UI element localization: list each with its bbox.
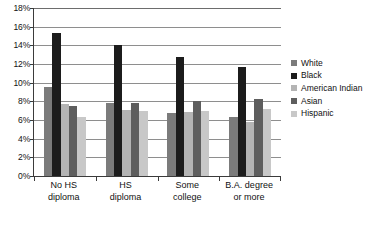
legend-label: Asian [301, 97, 322, 106]
legend-item: Black [291, 70, 384, 83]
y-tick-label: 12% [0, 60, 30, 69]
bar [61, 104, 69, 176]
bar [131, 103, 139, 176]
bar [77, 117, 85, 176]
legend-swatch-icon [291, 73, 297, 79]
bar-group [34, 8, 96, 176]
y-tick-label: 6% [0, 116, 30, 125]
legend-label: Black [301, 71, 322, 80]
bar [176, 57, 184, 176]
bar [238, 67, 246, 176]
bar-chart: 0%2%4%6%8%10%12%14%16%18% No HSdiplomaHS… [0, 0, 384, 225]
legend-label: American Indian [301, 84, 362, 93]
legend-item: White [291, 57, 384, 70]
bar [263, 109, 271, 176]
bars-layer [34, 8, 281, 176]
bar [246, 122, 254, 176]
bar [122, 110, 130, 176]
y-tick-label: 16% [0, 22, 30, 31]
bar [114, 45, 122, 176]
bar [52, 33, 60, 176]
x-axis-labels: No HSdiplomaHSdiplomaSomecollegeB.A. deg… [33, 180, 280, 212]
bar [229, 117, 237, 176]
plot-area [33, 8, 281, 177]
y-tick-label: 14% [0, 41, 30, 50]
bar [106, 103, 114, 176]
y-tick-label: 0% [0, 172, 30, 181]
legend: WhiteBlackAmerican IndianAsianHispanic [291, 57, 384, 120]
bar [139, 111, 147, 176]
y-axis: 0%2%4%6%8%10%12%14%16%18% [0, 0, 30, 185]
y-tick-label: 2% [0, 153, 30, 162]
bar-group [158, 8, 220, 176]
x-axis-category-line: HS [119, 180, 132, 190]
bar [44, 87, 52, 176]
legend-label: White [301, 59, 323, 68]
x-axis-category-line: Some [176, 180, 200, 190]
bar-group [219, 8, 281, 176]
x-axis-category-label: B.A. degreeor more [212, 180, 286, 203]
bar-group [96, 8, 158, 176]
bar [193, 101, 201, 176]
bar [69, 106, 77, 176]
y-tick-label: 18% [0, 4, 30, 13]
legend-swatch-icon [291, 60, 297, 66]
legend-swatch-icon [291, 98, 297, 104]
y-tick-label: 8% [0, 97, 30, 106]
legend-item: Hispanic [291, 107, 384, 120]
bar [184, 112, 192, 176]
bar [201, 111, 209, 176]
legend-item: American Indian [291, 82, 384, 95]
bar [254, 99, 262, 176]
legend-item: Asian [291, 95, 384, 108]
x-axis-category-line: B.A. degree [225, 180, 273, 190]
bar [167, 113, 175, 176]
legend-label: Hispanic [301, 109, 334, 118]
legend-swatch-icon [291, 85, 297, 91]
y-tick-label: 4% [0, 134, 30, 143]
x-axis-category-line: or more [212, 192, 286, 204]
y-tick-label: 10% [0, 78, 30, 87]
x-axis-category-line: No HS [51, 180, 78, 190]
legend-swatch-icon [291, 111, 297, 117]
